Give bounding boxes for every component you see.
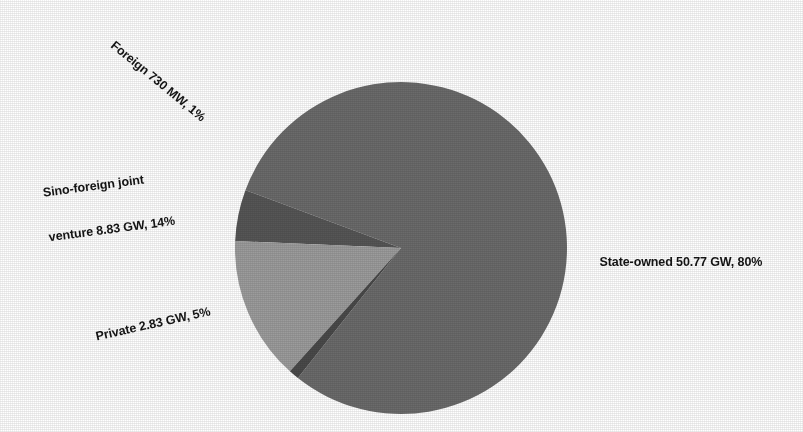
pie-label-private-text: Private 2.83 GW, 5% — [94, 305, 211, 344]
pie-label-state-owned-text: State-owned 50.77 GW, 80% — [600, 255, 763, 269]
pie-label-sino-foreign-line1: Sino-foreign joint — [42, 169, 170, 201]
pie-label-state-owned: State-owned 50.77 GW, 80% — [586, 240, 762, 286]
pie-label-sino-foreign-line2: venture 8.83 GW, 14% — [48, 214, 176, 246]
pie-label-sino-foreign: Sino-foreign joint venture 8.83 GW, 14% — [38, 138, 180, 276]
pie-chart: Foreign 730 MW, 1% Sino-foreign joint ve… — [0, 0, 803, 432]
